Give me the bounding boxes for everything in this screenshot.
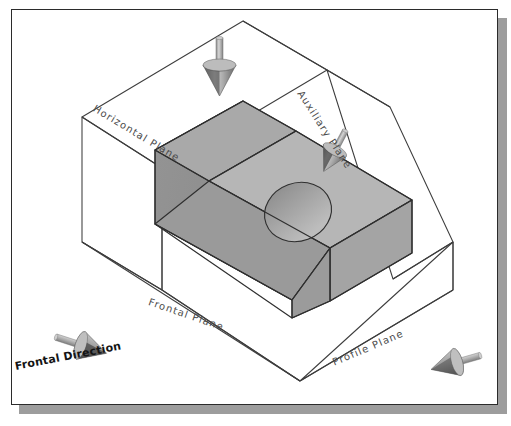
figure-root: Horizontal Plane Auxiliary Plane Frontal… — [0, 0, 511, 426]
